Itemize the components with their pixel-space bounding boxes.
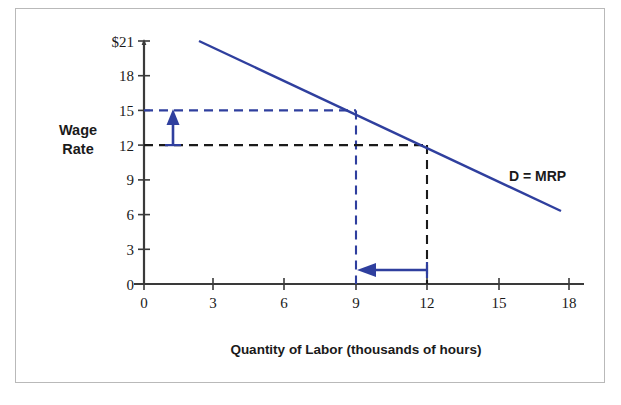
y-axis-tick-labels: 0 3 6 9 12 15 18 $21 xyxy=(112,34,135,293)
x-axis-title: Quantity of Labor (thousands of hours) xyxy=(230,342,481,357)
x-tick-label-12: 12 xyxy=(420,295,435,311)
x-tick-label-3: 3 xyxy=(209,295,217,311)
x-tick-label-6: 6 xyxy=(280,295,288,311)
demand-curve-line xyxy=(199,41,561,211)
y-axis-title-line2: Rate xyxy=(62,141,93,157)
y-tick-label-3: 3 xyxy=(127,242,135,258)
x-tick-label-18: 18 xyxy=(562,295,577,311)
y-tick-label-0: 0 xyxy=(127,277,135,293)
figure-frame: 0 3 6 9 12 15 18 $21 0 xyxy=(15,8,605,383)
y-axis-cap xyxy=(142,39,147,45)
demand-curve-label: D = MRP xyxy=(509,168,566,184)
y-axis-title-line1: Wage xyxy=(59,122,97,138)
wage-increase-arrow xyxy=(165,109,181,145)
y-tick-label-21: $21 xyxy=(112,34,135,50)
x-tick-label-0: 0 xyxy=(140,295,148,311)
y-tick-label-9: 9 xyxy=(127,172,135,188)
x-tick-label-9: 9 xyxy=(352,295,360,311)
y-axis-title: Wage Rate xyxy=(59,122,97,157)
quantity-decrease-arrow xyxy=(357,262,427,278)
x-tick-label-15: 15 xyxy=(492,295,507,311)
quantity-decrease-arrow-head xyxy=(357,263,376,277)
x-axis-tick-labels: 0 3 6 9 12 15 18 xyxy=(140,295,576,311)
y-tick-label-15: 15 xyxy=(119,103,134,119)
y-tick-label-6: 6 xyxy=(127,207,135,223)
labor-demand-chart: 0 3 6 9 12 15 18 $21 0 xyxy=(16,9,604,382)
y-tick-label-12: 12 xyxy=(119,138,134,154)
y-tick-label-18: 18 xyxy=(119,68,134,84)
screenshot-root: 0 3 6 9 12 15 18 $21 0 xyxy=(0,0,621,405)
